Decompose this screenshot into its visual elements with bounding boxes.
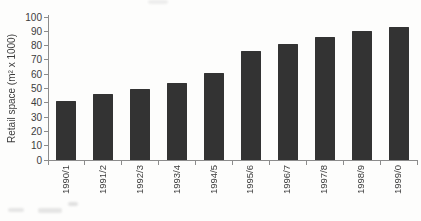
x-category-label: 1996/7	[281, 165, 293, 194]
bar	[167, 83, 187, 160]
y-tick-mark	[44, 145, 48, 146]
x-category-label: 1999/0	[392, 165, 404, 194]
scan-artifact	[38, 208, 62, 213]
bar	[93, 94, 113, 160]
x-tick-mark	[343, 161, 344, 165]
y-tick-mark	[44, 102, 48, 103]
x-category-label: 1990/1	[60, 165, 72, 194]
bar	[56, 101, 76, 160]
x-category-label-container: 1998/9	[355, 165, 368, 198]
scan-artifact	[68, 202, 78, 206]
x-tick-mark	[48, 161, 49, 165]
x-category-label-container: 1999/0	[392, 165, 405, 198]
y-tick-mark	[44, 117, 48, 118]
x-category-label: 1994/5	[208, 165, 220, 194]
y-tick-mark	[44, 17, 48, 18]
y-tick-mark	[44, 59, 48, 60]
x-tick-mark	[121, 161, 122, 165]
x-category-label: 1997/8	[318, 165, 330, 194]
x-tick-mark	[380, 161, 381, 165]
y-tick-label: 10	[0, 140, 42, 151]
x-axis-line	[48, 160, 418, 161]
y-tick-label: 30	[0, 112, 42, 123]
bar	[241, 51, 261, 160]
x-tick-mark	[417, 161, 418, 165]
x-category-label-container: 1996/7	[281, 165, 294, 198]
bar	[315, 37, 335, 160]
y-tick-label: 40	[0, 97, 42, 108]
scan-artifact	[8, 208, 24, 212]
y-tick-label: 60	[0, 69, 42, 80]
y-tick-mark	[44, 74, 48, 75]
x-category-label: 1992/3	[134, 165, 146, 194]
y-tick-label: 0	[0, 155, 42, 166]
y-tick-mark	[44, 131, 48, 132]
x-category-label: 1995/6	[244, 165, 256, 194]
x-category-label: 1993/4	[171, 165, 183, 194]
bar-chart-figure: Retail space (m² x 1000) 010203040506070…	[0, 0, 421, 221]
y-tick-label: 100	[0, 12, 42, 23]
x-tick-mark	[232, 161, 233, 165]
x-category-label-container: 1994/5	[208, 165, 221, 198]
y-tick-label: 70	[0, 54, 42, 65]
x-category-label-container: 1990/1	[60, 165, 73, 198]
x-category-label-container: 1991/2	[97, 165, 110, 198]
y-tick-label: 90	[0, 26, 42, 37]
y-tick-label: 20	[0, 126, 42, 137]
bar	[278, 44, 298, 160]
bar	[352, 31, 372, 160]
bar	[204, 73, 224, 160]
x-category-label-container: 1993/4	[171, 165, 184, 198]
x-tick-mark	[158, 161, 159, 165]
x-category-label: 1991/2	[97, 165, 109, 194]
y-tick-mark	[44, 45, 48, 46]
y-tick-label: 80	[0, 40, 42, 51]
y-tick-mark	[44, 88, 48, 89]
y-tick-label: 50	[0, 83, 42, 94]
x-tick-mark	[269, 161, 270, 165]
x-category-label-container: 1997/8	[318, 165, 331, 198]
x-tick-mark	[306, 161, 307, 165]
scan-artifact	[148, 0, 168, 4]
x-category-label-container: 1995/6	[244, 165, 257, 198]
y-tick-mark	[44, 31, 48, 32]
y-axis-line	[48, 15, 49, 161]
bar	[389, 27, 409, 160]
x-category-label-container: 1992/3	[134, 165, 147, 198]
x-tick-mark	[195, 161, 196, 165]
x-category-label: 1998/9	[355, 165, 367, 194]
bar	[130, 89, 150, 161]
x-tick-mark	[84, 161, 85, 165]
